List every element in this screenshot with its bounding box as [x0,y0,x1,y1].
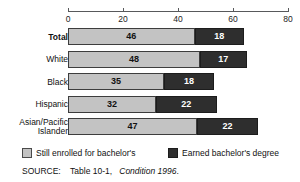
legend-item-earned-degree: Earned bachelor's degree [168,146,279,160]
bar-value-label: 22 [181,100,191,109]
bar-segment-still-enrolled: 48 [68,51,200,68]
stacked-bar: 3518 [68,73,214,90]
x-axis-tick [68,8,69,12]
category-label-asian-pacific-islander: Asian/Pacific Islander [0,118,68,136]
stacked-bar: 4722 [68,118,258,135]
stacked-bar: 3222 [68,96,217,113]
bar-segment-earned-degree: 18 [195,28,245,45]
x-axis-tick [288,8,289,12]
bar-value-label: 48 [129,55,139,64]
legend-swatch-icon [22,148,32,158]
category-label-black: Black [0,77,68,86]
plot-area: Total4618White4817Black3518Hispanic3222A… [0,26,300,144]
x-axis-tick [233,8,234,12]
bar-segment-earned-degree: 22 [156,96,217,113]
bar-value-label: 32 [107,100,117,109]
x-axis-tick-label: 20 [118,14,127,24]
bar-segment-still-enrolled: 46 [68,28,195,45]
bar-value-label: 18 [184,77,194,86]
chart-row: Total4618 [0,28,300,45]
bar-value-label: 17 [218,55,228,64]
source-note: SOURCE: Table 10-1, Condition 1996. [22,166,179,176]
stacked-bar-chart: 020406080 Total4618White4817Black3518His… [0,0,300,182]
bar-segment-still-enrolled: 35 [68,73,164,90]
bar-segment-still-enrolled: 47 [68,118,197,135]
bar-value-label: 22 [222,122,232,131]
bar-value-label: 18 [214,32,224,41]
bar-value-label: 35 [111,77,121,86]
source-prefix: SOURCE: [22,166,61,176]
bar-segment-earned-degree: 22 [197,118,258,135]
source-suffix: . [176,166,178,176]
chart-row: Hispanic3222 [0,96,300,113]
chart-row: White4817 [0,51,300,68]
legend-label: Earned bachelor's degree [182,148,279,158]
x-axis-tick [123,8,124,12]
x-axis-tick [178,8,179,12]
bar-segment-earned-degree: 18 [164,73,214,90]
x-axis-tick-label: 60 [228,14,237,24]
legend-label: Still enrolled for bachelor's [36,148,135,158]
bar-value-label: 47 [128,122,138,131]
category-label-white: White [0,55,68,64]
legend-swatch-icon [168,148,178,158]
bar-segment-still-enrolled: 32 [68,96,156,113]
source-table: Table 10-1, [70,166,112,176]
x-axis-tick-label: 80 [283,14,292,24]
bar-value-label: 46 [126,32,136,41]
clipped-header-text [0,0,300,2]
category-label-total: Total [0,32,68,41]
stacked-bar: 4618 [68,28,244,45]
chart-row: Asian/Pacific Islander4722 [0,118,300,135]
x-axis-tick-label: 40 [173,14,182,24]
source-publication: Condition 1996 [119,166,176,176]
stacked-bar: 4817 [68,51,247,68]
bar-segment-earned-degree: 17 [200,51,247,68]
chart-legend: Still enrolled for bachelor'sEarned bach… [0,146,300,160]
x-axis-tick-label: 0 [66,14,71,24]
legend-item-still-enrolled: Still enrolled for bachelor's [22,146,135,160]
category-label-hispanic: Hispanic [0,100,68,109]
chart-row: Black3518 [0,73,300,90]
